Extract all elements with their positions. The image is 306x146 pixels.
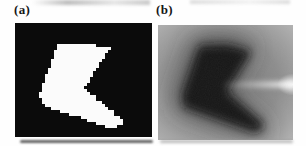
panel-a-label: (a) <box>14 3 30 17</box>
panel-b-grayscale-distance-map <box>158 25 293 140</box>
scan-shadow-bottom-right <box>160 140 293 143</box>
scan-smudge-top-left <box>32 0 150 5</box>
scan-smudge-top-right <box>190 0 290 4</box>
panel-a-binary-shape-image <box>15 23 152 137</box>
paper-figure-page: (a) (b) <box>0 0 306 146</box>
panel-b-label: (b) <box>156 3 173 17</box>
scan-shadow-bottom-left <box>20 140 153 143</box>
